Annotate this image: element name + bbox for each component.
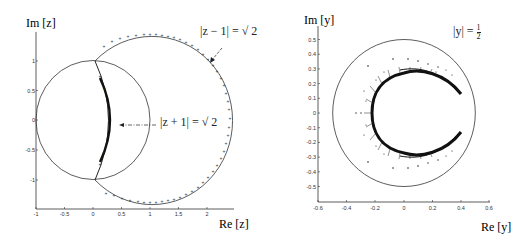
svg-text:+: + (207, 174, 210, 180)
unit-circle (36, 61, 150, 180)
right-plot: -0.6 -0.4 -0.2 0 0.2 0.4 0.6 0.5 0.4 0.3… (260, 0, 521, 249)
svg-text:+: + (202, 51, 205, 57)
left-ytick: -0.5 (26, 147, 35, 153)
left-ytick: -1 (30, 177, 35, 183)
svg-text:+: + (99, 161, 102, 167)
left-xtick: 2 (205, 211, 208, 217)
left-xtick: -1 (34, 211, 39, 217)
svg-text:+: + (207, 56, 210, 62)
svg-text:+: + (149, 199, 152, 205)
left-xtick: -0.5 (60, 211, 69, 217)
right-ytick: -0.3 (307, 154, 316, 160)
svg-text:+: + (179, 194, 182, 200)
svg-text:+: + (191, 188, 194, 194)
svg-text:+: + (103, 43, 106, 49)
svg-text:+: + (227, 98, 230, 104)
svg-text:+: + (121, 195, 124, 201)
svg-text:+: + (225, 90, 228, 96)
svg-text:+: + (137, 198, 140, 204)
svg-text:+: + (111, 38, 114, 44)
right-xtick: 0 (402, 205, 405, 211)
svg-text:+: + (212, 168, 215, 174)
svg-text:+: + (185, 39, 188, 45)
svg-text:+: + (167, 197, 170, 203)
left-ytick: 0.5 (27, 88, 35, 94)
svg-text:+: + (197, 184, 200, 190)
right-chart: Im [y] Re [y] |y| = 1 2 (260, 0, 521, 249)
svg-text:+: + (105, 143, 108, 149)
svg-text:+: + (191, 42, 194, 48)
right-ytick: 0.5 (308, 37, 316, 43)
svg-text:+: + (223, 148, 226, 154)
svg-text:+: + (155, 31, 158, 37)
svg-text:+: + (179, 36, 182, 42)
svg-text:+: + (229, 115, 232, 121)
right-ytick: 0 (313, 110, 316, 116)
svg-text:+: + (202, 179, 205, 185)
right-ytick: -0.4 (307, 169, 316, 175)
svg-text:+: + (143, 31, 146, 37)
right-ytick: -0.1 (307, 125, 316, 131)
left-xtick: 0 (91, 211, 94, 217)
left-chart: Im [z] Re [z] |z − 1| = √ 2 |z + 1| = √ … (0, 0, 260, 249)
half-circle (333, 40, 476, 187)
svg-text:+: + (103, 149, 106, 155)
svg-text:+: + (216, 68, 219, 74)
svg-text:+: + (185, 191, 188, 197)
svg-text:+: + (161, 198, 164, 204)
right-ytick: 0.2 (308, 81, 316, 87)
svg-text:+: + (223, 82, 226, 88)
svg-text:+: + (103, 85, 106, 91)
right-ytick: -0.2 (307, 139, 316, 145)
right-xtick: 0.4 (457, 205, 465, 211)
svg-text:+: + (225, 140, 228, 146)
svg-text:+: + (216, 162, 219, 168)
svg-text:+: + (155, 199, 158, 205)
svg-text:+: + (227, 132, 230, 138)
svg-text:+: + (197, 46, 200, 52)
right-ytick: 0.1 (308, 95, 316, 101)
right-xtick: -0.6 (313, 205, 322, 211)
svg-text:+: + (167, 33, 170, 39)
svg-text:+: + (173, 196, 176, 202)
right-xtick: -0.2 (370, 205, 379, 211)
right-ytick: 0.3 (308, 66, 316, 72)
svg-text:+: + (212, 62, 215, 68)
right-xtick: 0.6 (485, 205, 493, 211)
left-xtick: 1 (148, 211, 151, 217)
svg-text:+: + (129, 197, 132, 203)
right-xtick: 0.2 (429, 205, 437, 211)
right-xtick: -0.4 (342, 205, 351, 211)
svg-text:+: + (135, 32, 138, 38)
left-xtick: 0.5 (118, 211, 126, 217)
svg-text:+: + (143, 199, 146, 205)
left-plot: -1 -0.5 0 0.5 1 1.5 2 1 0.5 0 -0.5 -1 ++… (0, 0, 260, 249)
svg-text:+: + (220, 155, 223, 161)
left-ytick: 0 (32, 117, 35, 123)
crescent-dense (372, 71, 461, 155)
left-xtick: 1.5 (175, 211, 183, 217)
svg-text:+: + (228, 106, 231, 112)
svg-text:+: + (173, 34, 176, 40)
svg-text:+: + (220, 75, 223, 81)
svg-text:+: + (105, 190, 108, 196)
right-ytick: -0.5 (307, 184, 316, 190)
svg-text:+: + (149, 31, 152, 37)
svg-text:+: + (119, 35, 122, 41)
right-ytick: 0.4 (308, 51, 316, 57)
svg-text:+: + (101, 155, 104, 161)
svg-text:+: + (161, 32, 164, 38)
svg-text:+: + (127, 33, 130, 39)
svg-text:+: + (113, 192, 116, 198)
svg-text:+: + (228, 124, 231, 130)
left-ytick: 1 (32, 58, 35, 64)
